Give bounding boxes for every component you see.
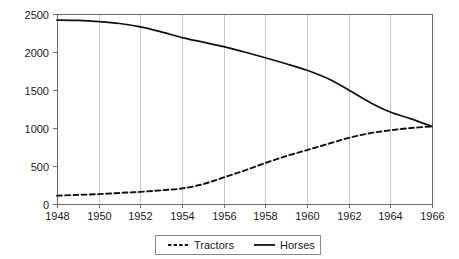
chart-legend[interactable]: TractorsHorses [156, 236, 321, 255]
x-tick-label: 1966 [420, 210, 444, 222]
y-tick-label: 0 [43, 199, 49, 211]
x-tick-label: 1958 [253, 210, 277, 222]
legend-label-tractors: Tractors [194, 239, 234, 251]
y-tick-label: 2500 [25, 9, 49, 21]
chart-canvas: 05001000150020002500 1948195019521954195… [0, 0, 459, 259]
y-tick-label: 2000 [25, 47, 49, 59]
y-tick-label: 1000 [25, 123, 49, 135]
x-tick-label: 1954 [170, 210, 194, 222]
screenshot-root: 05001000150020002500 1948195019521954195… [0, 0, 459, 259]
x-tick-label: 1956 [212, 210, 236, 222]
x-tick-label: 1950 [87, 210, 111, 222]
y-tick-label: 1500 [25, 85, 49, 97]
x-tick-label: 1952 [128, 210, 152, 222]
legend-label-horses: Horses [280, 239, 315, 251]
x-tick-label: 1948 [45, 210, 69, 222]
y-tick-label: 500 [31, 161, 49, 173]
x-tick-label: 1960 [295, 210, 319, 222]
x-tick-label: 1962 [337, 210, 361, 222]
line-chart-figure: 05001000150020002500 1948195019521954195… [0, 0, 459, 259]
x-tick-label: 1964 [378, 210, 402, 222]
